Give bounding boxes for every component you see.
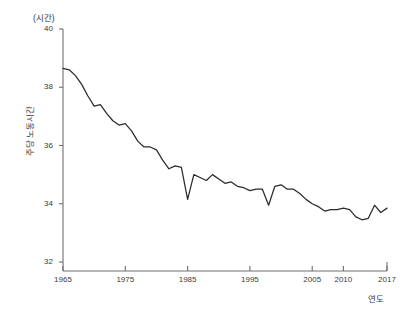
- line-chart-plot: [0, 0, 409, 316]
- chart-container: (시간) 주당 노동시간 연도 3234363840 1965197519851…: [0, 0, 409, 316]
- axis-lines: [63, 29, 387, 271]
- y-tick-label: 34: [31, 199, 53, 208]
- data-series-line: [63, 68, 387, 219]
- x-tick-marks: [63, 266, 387, 271]
- y-tick-marks: [59, 29, 63, 262]
- y-tick-label: 38: [31, 82, 53, 91]
- x-tick-label: 2010: [323, 275, 363, 284]
- x-tick-label: 1995: [230, 275, 270, 284]
- y-tick-label: 32: [31, 257, 53, 266]
- x-tick-label: 1975: [105, 275, 145, 284]
- x-tick-label: 2017: [367, 275, 407, 284]
- x-tick-label: 1965: [43, 275, 83, 284]
- x-tick-label: 1985: [168, 275, 208, 284]
- y-tick-label: 40: [31, 24, 53, 33]
- y-tick-label: 36: [31, 141, 53, 150]
